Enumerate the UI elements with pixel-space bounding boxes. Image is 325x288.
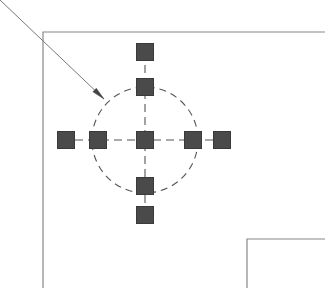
node-bottom-on-circle[interactable]	[137, 178, 154, 195]
wall-outline	[43, 32, 325, 288]
node-right-outer[interactable]	[214, 132, 231, 149]
node-left-outer[interactable]	[58, 132, 75, 149]
node-top-on-circle[interactable]	[137, 79, 154, 96]
cad-drawing	[0, 0, 325, 288]
wall-outline-outer	[43, 32, 325, 288]
node-right-on-circle[interactable]	[185, 132, 202, 149]
node-bottom-outer[interactable]	[137, 207, 154, 224]
drawing-canvas	[0, 0, 325, 288]
node-top-outer[interactable]	[137, 44, 154, 61]
node-center[interactable]	[137, 132, 154, 149]
wall-outline-inner	[247, 239, 325, 288]
node-squares	[58, 44, 231, 224]
node-left-on-circle[interactable]	[90, 132, 107, 149]
leader-arrow	[0, 0, 104, 99]
leader-line	[0, 0, 104, 99]
leader-arrow-head-icon	[93, 88, 104, 99]
